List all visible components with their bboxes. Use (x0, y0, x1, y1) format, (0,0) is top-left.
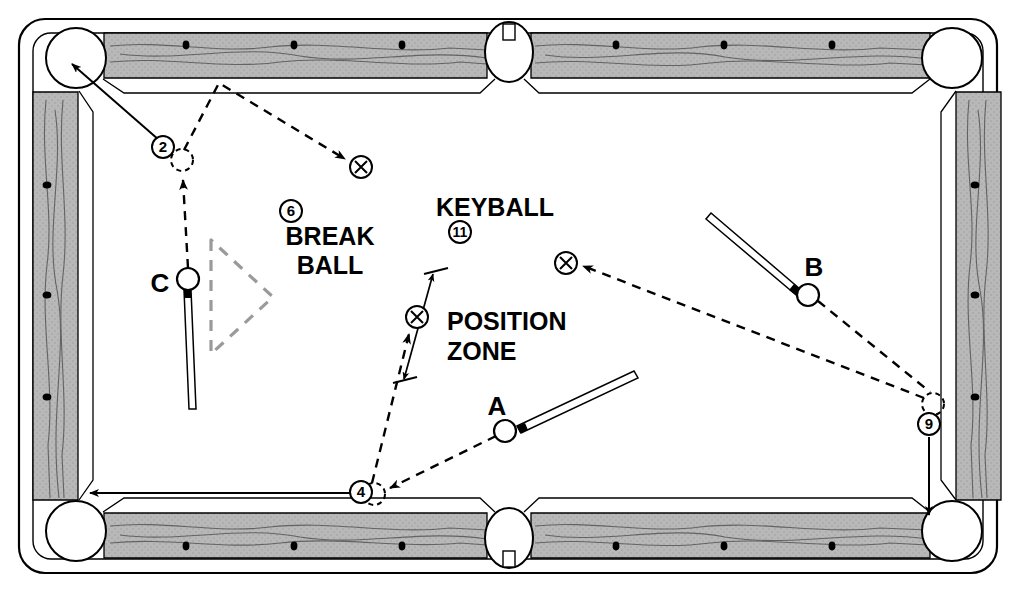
diamond-bottom-5 (721, 542, 728, 551)
diamond-top-3 (399, 41, 406, 50)
pocket-top-side-neck (503, 24, 515, 40)
rail-bottom-right-segment (531, 513, 930, 558)
cue-ball-label-a: A (488, 391, 507, 421)
object-ball-4[interactable]: 4 (350, 481, 372, 503)
diamond-top-1 (183, 41, 190, 50)
object-ball-11-keyball[interactable]: 11 (449, 221, 471, 243)
position-zone-label-line1: POSITION (447, 307, 566, 335)
diamond-top-2 (291, 41, 298, 50)
diamond-left-2 (43, 291, 52, 298)
object-ball-9[interactable]: 9 (918, 413, 940, 435)
ghost-ball-x-top (350, 156, 372, 178)
break-ball-label-line2: BALL (297, 251, 364, 279)
pool-table-diagram: 2 6 11 4 9 BREAK BALL KEYBALL POSITION Z… (0, 0, 1016, 591)
diamond-top-5 (721, 41, 728, 50)
cue-ball-c[interactable] (177, 268, 199, 290)
diamond-left-3 (43, 393, 52, 400)
keyball-label: KEYBALL (436, 193, 554, 221)
rail-top-right-segment (531, 33, 930, 78)
object-ball-6-break-ball[interactable]: 6 (280, 200, 302, 222)
cue-ball-a[interactable] (494, 420, 516, 442)
diamond-top-4 (613, 41, 620, 50)
diamond-bottom-1 (183, 542, 190, 551)
pocket-top-right[interactable] (922, 28, 982, 88)
diamond-top-6 (829, 41, 836, 50)
cue-ball-label-c: C (151, 268, 170, 298)
diamond-bottom-4 (613, 542, 620, 551)
pool-diagram-stage: 2 6 11 4 9 BREAK BALL KEYBALL POSITION Z… (0, 0, 1016, 591)
diamond-right-1 (971, 181, 980, 188)
diamond-bottom-6 (829, 542, 836, 551)
position-zone-label-line2: ZONE (447, 337, 516, 365)
pocket-bottom-side-neck (503, 551, 515, 567)
object-ball-2[interactable]: 2 (152, 136, 174, 158)
cue-ball-label-b: B (805, 252, 824, 282)
object-ball-11-number: 11 (453, 224, 468, 240)
pocket-bottom-right[interactable] (922, 501, 982, 561)
diamond-left-1 (43, 181, 52, 188)
break-ball-label-line1: BREAK (286, 222, 375, 250)
ghost-ball-x-position-zone (406, 306, 428, 328)
object-ball-4-number: 4 (357, 483, 366, 500)
diamond-right-2 (971, 291, 980, 298)
object-ball-2-number: 2 (159, 138, 167, 155)
ghost-ball-x-right (555, 252, 577, 274)
pocket-top-left[interactable] (46, 28, 106, 88)
cue-ball-b[interactable] (797, 284, 819, 306)
table-inner-edge (33, 33, 983, 559)
object-ball-6-number: 6 (287, 202, 295, 219)
diamond-bottom-2 (291, 542, 298, 551)
diamond-bottom-3 (399, 542, 406, 551)
object-ball-9-number: 9 (925, 415, 933, 432)
diamond-right-3 (971, 393, 980, 400)
pocket-bottom-left[interactable] (46, 501, 106, 561)
